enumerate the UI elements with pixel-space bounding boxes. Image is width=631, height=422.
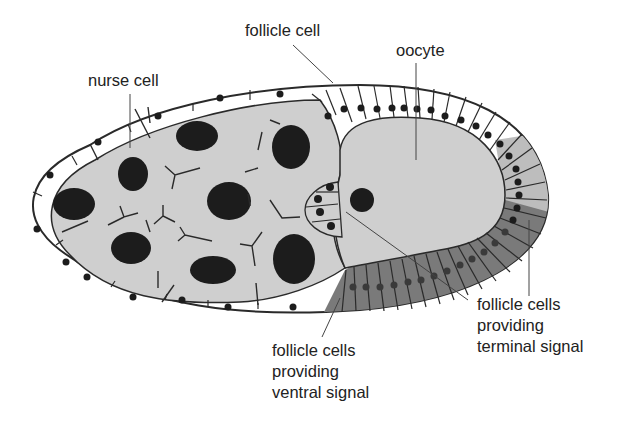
label-line: terminal signal — [477, 336, 583, 357]
leader-follicle-cell — [293, 45, 333, 83]
label-line: ventral signal — [272, 382, 369, 403]
label-text: follicle cell — [245, 20, 320, 41]
label-line: follicle cells — [272, 340, 369, 361]
label-follicle-cell: follicle cell — [245, 20, 320, 41]
label-terminal-signal: follicle cells providing terminal signal — [477, 294, 583, 357]
label-nurse-cell: nurse cell — [88, 70, 159, 91]
label-oocyte: oocyte — [396, 40, 445, 61]
label-text: nurse cell — [88, 70, 159, 91]
label-line: providing — [272, 361, 369, 382]
oocyte-nucleus — [350, 188, 374, 212]
label-text: oocyte — [396, 40, 445, 61]
label-ventral-signal: follicle cells providing ventral signal — [272, 340, 369, 403]
label-line: providing — [477, 315, 583, 336]
label-line: follicle cells — [477, 294, 583, 315]
